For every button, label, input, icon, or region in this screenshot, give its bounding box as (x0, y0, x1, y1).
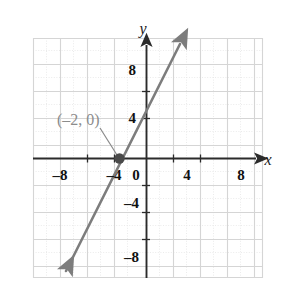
y-tick-label-4: 4 (129, 110, 137, 126)
coordinate-plane-figure: x y (–2, 0) –8 –4 0 4 8 8 4 –4 –8 (0, 0, 293, 290)
x-axis-label: x (263, 151, 271, 168)
x-tick-label--8: –8 (52, 167, 68, 183)
x-tick-label--4: –4 (106, 167, 123, 183)
point-annotation-label: (–2, 0) (57, 111, 100, 129)
y-tick-label--4: –4 (123, 195, 140, 211)
plotted-point-marker (114, 153, 124, 163)
y-tick-label-8: 8 (129, 62, 137, 78)
x-tick-label-8: 8 (237, 167, 245, 183)
x-tick-label-0: 0 (132, 167, 140, 183)
y-tick-label--8: –8 (123, 249, 139, 265)
x-tick-label-4: 4 (183, 167, 191, 183)
y-axis-label: y (137, 20, 147, 38)
